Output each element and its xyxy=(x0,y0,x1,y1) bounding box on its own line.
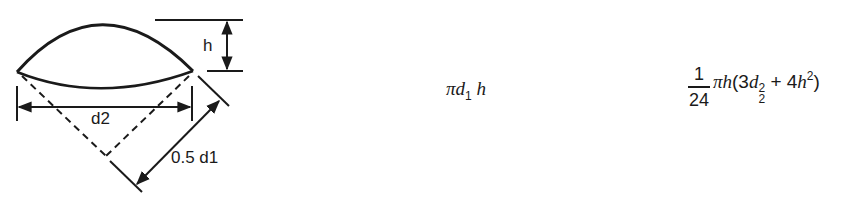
volume-expression: πh(3d22 + 4h2) xyxy=(713,69,820,105)
superscript-2-h: 2 xyxy=(807,69,814,83)
var-h: h xyxy=(476,78,486,99)
subscript-1: 1 xyxy=(465,89,472,103)
subscript-2: 2 xyxy=(758,94,765,105)
plus-sign: + xyxy=(765,71,787,92)
geometry-figure: h d2 0.5 d1 xyxy=(0,0,260,207)
upper-arc xyxy=(17,25,193,72)
lower-arc xyxy=(17,71,193,88)
radius-extension-lower xyxy=(110,161,142,192)
numerator: 1 xyxy=(694,64,704,84)
pi-symbol: π xyxy=(713,71,723,92)
var-h: h xyxy=(723,71,733,92)
pi-symbol: π xyxy=(446,78,456,99)
label-h: h xyxy=(203,36,212,55)
label-d2: d2 xyxy=(91,109,110,128)
close-paren: ) xyxy=(814,71,820,92)
fraction: 1 24 xyxy=(688,64,710,110)
surface-area-formula: πd1 h xyxy=(446,78,486,103)
fraction-bar xyxy=(688,86,710,88)
coefficient-4: 4 xyxy=(787,71,798,92)
label-radius: 0.5 d1 xyxy=(171,148,218,167)
var-d: d xyxy=(456,78,466,99)
volume-formula: 1 24 πh(3d22 + 4h2) xyxy=(688,64,820,110)
var-d: d xyxy=(749,71,759,92)
coefficient-3: 3 xyxy=(738,71,749,92)
radius-extension-upper xyxy=(198,76,229,106)
var-h-squared: h xyxy=(797,71,807,92)
denominator: 24 xyxy=(689,90,709,110)
